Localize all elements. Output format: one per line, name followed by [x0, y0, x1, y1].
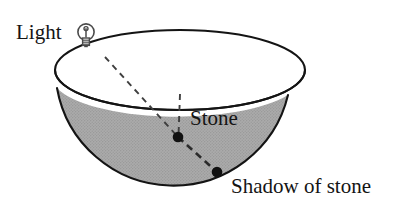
stone-point-marker: [173, 132, 184, 143]
light-bulb-icon-container: [74, 21, 98, 51]
label-stone: Stone: [190, 108, 238, 129]
shadow-point-marker: [212, 167, 223, 178]
light-bulb-icon: [74, 21, 98, 51]
label-shadow-of-stone: Shadow of stone: [231, 176, 371, 197]
label-light: Light: [16, 22, 62, 43]
figure-container: Light Stone Shadow of stone: [0, 0, 410, 212]
